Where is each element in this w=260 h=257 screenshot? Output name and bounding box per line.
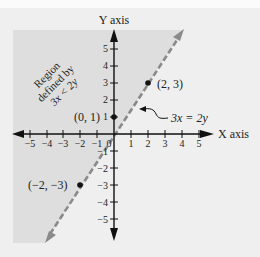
point-neg2-neg3 (77, 182, 83, 188)
x-tick-label: 4 (180, 138, 185, 149)
point-label-0-1: (0, 1) (74, 110, 100, 124)
x-tick-label: −3 (58, 138, 69, 149)
x-axis-right-arrow-icon (200, 130, 214, 138)
y-tick-label: −5 (97, 214, 108, 225)
point-0-1 (111, 114, 117, 120)
y-tick-label: −3 (97, 180, 108, 191)
x-axis-title: X axis (218, 127, 249, 141)
equation-label: 3x = 2y (170, 111, 208, 125)
point-label-2-3: (2, 3) (157, 77, 183, 91)
y-axis-title: Y axis (99, 13, 130, 27)
x-tick-label: 3 (163, 138, 168, 149)
shaded-region (13, 30, 183, 243)
y-tick-label: 4 (103, 60, 108, 71)
x-tick-label: −4 (42, 138, 53, 149)
x-tick-label: −2 (75, 138, 86, 149)
y-tick-label: −1 (97, 146, 108, 157)
x-tick-label: −5 (25, 138, 36, 149)
y-tick-label: 3 (103, 77, 108, 88)
y-tick-label: −2 (97, 163, 108, 174)
callout-curve (143, 109, 168, 119)
callout-arrow-icon (139, 106, 146, 112)
y-tick-label: −4 (97, 197, 108, 208)
point-label-neg2-neg3: (−2, −3) (28, 178, 68, 192)
y-tick-label: 1 (103, 111, 108, 122)
y-tick-label: 5 (103, 43, 108, 54)
x-tick-label: 2 (146, 138, 151, 149)
point-2-3 (145, 80, 151, 86)
coordinate-plane: −5 −4 −3 −2 −1 0 1 2 3 4 5 5 4 3 2 1 −1 … (0, 0, 260, 257)
y-axis-down-arrow-icon (110, 228, 118, 241)
y-tick-label: 2 (103, 94, 108, 105)
x-tick-label: 5 (197, 138, 202, 149)
x-tick-label: 1 (129, 138, 134, 149)
